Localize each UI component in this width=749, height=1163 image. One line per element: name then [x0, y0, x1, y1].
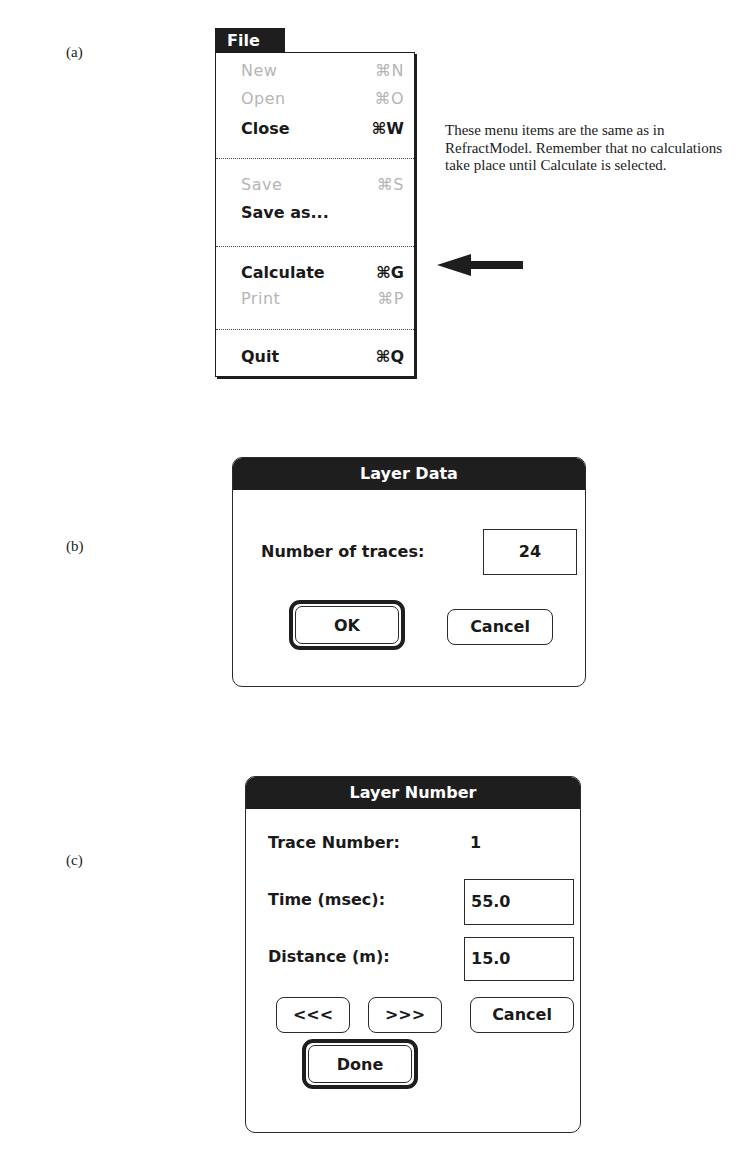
ok-button-label: OK [334, 616, 360, 635]
cancel-button[interactable]: Cancel [447, 609, 553, 645]
annotation-text: These menu items are the same as in Refr… [445, 122, 745, 175]
trace-number-value: 1 [470, 833, 481, 852]
panel-label-a: (a) [66, 44, 83, 61]
menu-item-label: Quit [241, 345, 279, 369]
time-label: Time (msec): [268, 890, 385, 909]
menu-item-label: Open [241, 87, 286, 111]
file-menu: New ⌘N Open ⌘O Close ⌘W Save ⌘S Save as.… [215, 52, 415, 377]
traces-label: Number of traces: [261, 542, 424, 561]
menu-item-shortcut: ⌘W [372, 117, 405, 141]
menu-item-print[interactable]: Print ⌘P [241, 287, 404, 311]
menu-item-save-as[interactable]: Save as... [241, 201, 404, 225]
cancel-button[interactable]: Cancel [470, 997, 574, 1033]
dialog-title: Layer Data [233, 458, 585, 490]
layer-number-dialog: Layer Number Trace Number: 1 Time (msec)… [245, 776, 581, 1133]
traces-input[interactable]: 24 [483, 529, 577, 575]
menu-item-save[interactable]: Save ⌘S [241, 173, 404, 197]
menu-item-shortcut: ⌘O [374, 87, 404, 111]
menu-item-shortcut: ⌘P [377, 287, 404, 311]
menu-item-shortcut: ⌘N [375, 59, 404, 83]
menu-item-shortcut: ⌘G [376, 261, 404, 285]
menu-item-label: Save as... [241, 201, 329, 225]
menu-item-shortcut: ⌘S [377, 173, 404, 197]
next-trace-button[interactable]: >>> [368, 997, 442, 1033]
menu-item-label: Print [241, 287, 280, 311]
menu-item-calculate[interactable]: Calculate ⌘G [241, 261, 404, 285]
distance-input[interactable]: 15.0 [464, 937, 574, 981]
file-menu-title[interactable]: File [215, 28, 285, 53]
previous-trace-button[interactable]: <<< [276, 997, 350, 1033]
trace-number-label: Trace Number: [268, 833, 400, 852]
menu-item-close[interactable]: Close ⌘W [241, 117, 404, 141]
done-button-label: Done [337, 1055, 384, 1074]
menu-separator [216, 158, 414, 159]
menu-separator [216, 246, 414, 247]
panel-label-c: (c) [66, 852, 83, 869]
dialog-title: Layer Number [246, 777, 580, 809]
menu-item-label: Close [241, 117, 290, 141]
time-input[interactable]: 55.0 [464, 879, 574, 925]
menu-item-shortcut: ⌘Q [376, 345, 404, 369]
menu-item-label: New [241, 59, 277, 83]
ok-button[interactable]: OK [289, 600, 405, 650]
distance-label: Distance (m): [268, 947, 390, 966]
panel-label-b: (b) [66, 538, 84, 555]
menu-item-open[interactable]: Open ⌘O [241, 87, 404, 111]
menu-separator [216, 329, 414, 330]
menu-item-new[interactable]: New ⌘N [241, 59, 404, 83]
menu-item-quit[interactable]: Quit ⌘Q [241, 345, 404, 369]
menu-item-label: Calculate [241, 261, 325, 285]
done-button[interactable]: Done [302, 1039, 418, 1089]
left-arrow-icon [437, 254, 523, 276]
layer-data-dialog: Layer Data Number of traces: 24 OK Cance… [232, 457, 586, 687]
menu-item-label: Save [241, 173, 282, 197]
